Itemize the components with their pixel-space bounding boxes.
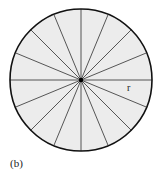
center-point bbox=[79, 78, 83, 82]
figure-caption: (b) bbox=[10, 157, 23, 169]
sectored-circle-diagram: r bbox=[0, 0, 160, 176]
